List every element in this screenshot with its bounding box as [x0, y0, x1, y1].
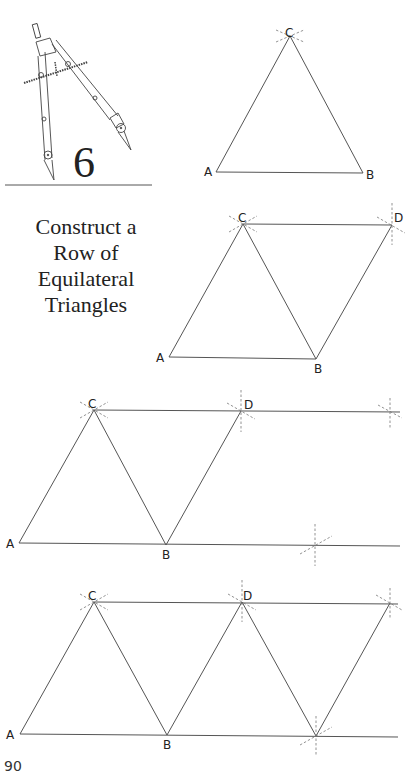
label-b: B: [163, 738, 171, 752]
figure-3-row: A B C D: [6, 390, 402, 566]
label-a: A: [6, 537, 15, 551]
step-number: 6: [73, 138, 95, 187]
step-title: Construct a Row of Equilateral Triangles: [10, 214, 162, 318]
label-a: A: [204, 165, 213, 179]
label-c: C: [238, 211, 246, 225]
title-line: Equilateral: [10, 266, 162, 292]
arc-marks: [80, 390, 402, 566]
figure-2-rhombus: A B C D: [156, 203, 405, 376]
label-a: A: [156, 351, 165, 365]
figure-1-triangle: A B C: [204, 26, 374, 182]
label-b: B: [162, 548, 170, 562]
label-b: B: [366, 168, 374, 182]
page-number: 90: [4, 758, 22, 774]
title-line: Construct a: [10, 214, 162, 240]
label-c: C: [285, 26, 293, 40]
figure-4-row: A B C D: [6, 580, 402, 756]
label-b: B: [314, 362, 322, 376]
label-d: D: [394, 211, 403, 225]
label-c: C: [88, 589, 96, 603]
label-d: D: [243, 589, 252, 603]
label-d: D: [244, 398, 253, 412]
label-c: C: [88, 397, 96, 411]
title-line: Triangles: [10, 292, 162, 318]
title-line: Row of: [10, 240, 162, 266]
label-a: A: [6, 728, 15, 742]
